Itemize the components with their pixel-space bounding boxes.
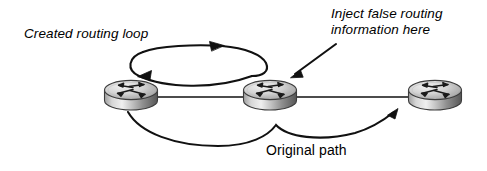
routing-loop-arrow bbox=[130, 41, 267, 85]
router-right bbox=[409, 80, 462, 110]
router-middle bbox=[244, 80, 297, 110]
original-path-arrow bbox=[128, 109, 398, 147]
inject-arrowhead bbox=[291, 70, 304, 78]
inject-pointer-arrow bbox=[291, 44, 337, 78]
routing-loop-diagram: Created routing loop Inject false routin… bbox=[0, 0, 487, 171]
label-created-routing-loop: Created routing loop bbox=[24, 26, 148, 42]
router-nodes bbox=[105, 80, 462, 110]
original-path-arrowhead bbox=[388, 109, 399, 120]
loop-arrowhead-left bbox=[138, 71, 152, 80]
label-inject-false-routing-line2: information here bbox=[331, 22, 430, 38]
router-left bbox=[105, 80, 158, 110]
label-inject-false-routing-line1: Inject false routing bbox=[331, 6, 443, 22]
loop-arrowhead-right bbox=[210, 41, 225, 50]
label-original-path: Original path bbox=[266, 142, 347, 159]
